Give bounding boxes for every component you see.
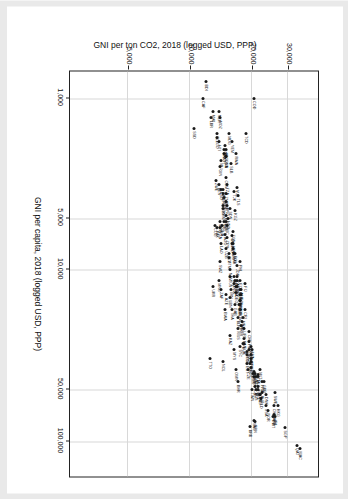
point-label: NER [217, 114, 221, 122]
point-label: TJK [232, 194, 236, 201]
y-tick-mark [288, 65, 289, 69]
point-label: SSD [192, 131, 196, 139]
scatter-point [213, 223, 216, 226]
point-label: MNG [217, 283, 221, 292]
scatter-point [250, 388, 253, 391]
point-label: NAM [228, 272, 232, 280]
x-tick-mark [66, 268, 70, 269]
scatter-point [244, 281, 247, 284]
scatter-point [233, 347, 236, 350]
scatter-point [201, 96, 204, 99]
point-label: LBN [228, 300, 232, 307]
scatter-point [236, 278, 239, 281]
y-tick-label: 20,000 [249, 24, 256, 64]
point-label: SLV [227, 256, 231, 263]
y-tick-mark [190, 65, 191, 69]
point-label: FIJ [243, 286, 247, 291]
point-label: COD [252, 101, 256, 109]
y-tick-mark [252, 65, 253, 69]
scatter-point [234, 303, 237, 306]
scatter-point [239, 260, 242, 263]
point-label: BWA [223, 312, 227, 320]
x-gridline [70, 389, 318, 390]
x-tick-label: 1,000 [57, 88, 64, 106]
scatter-point [239, 345, 242, 348]
y-axis-label: GNI per ton CO2, 2018 (logged USD, PPP) [75, 39, 275, 49]
scatter-point [225, 175, 228, 178]
point-label: SAU [253, 423, 257, 431]
point-label: HTI [217, 144, 221, 150]
point-label: BRB [248, 429, 252, 437]
scatter-point [248, 425, 251, 428]
point-label: COM [224, 180, 228, 189]
point-label: RWA [234, 156, 238, 165]
x-tick-mark [66, 388, 70, 389]
scatter-point [228, 268, 231, 271]
point-label: NCL [221, 364, 225, 372]
scatter-point [233, 281, 236, 284]
x-gridline [70, 441, 318, 442]
point-label: MAR [232, 256, 236, 264]
scatter-point [228, 333, 231, 336]
y-gridline [287, 71, 288, 476]
point-label: MRT [222, 224, 226, 232]
point-label: MUS [236, 331, 240, 339]
point-label: TCD [244, 136, 248, 144]
scatter-point [229, 295, 232, 298]
scatter-point [212, 284, 215, 287]
x-gridline [70, 269, 318, 270]
scatter-point [219, 219, 222, 222]
scatter-point [219, 164, 222, 167]
scatter-point [217, 140, 220, 143]
scatter-point [235, 367, 238, 370]
scatter-point [224, 232, 227, 235]
scatter-point [236, 275, 239, 278]
scatter-point [232, 230, 235, 233]
point-label: KIR [224, 204, 228, 210]
scatter-point [253, 418, 256, 421]
scatter-point [227, 251, 230, 254]
point-label: QAT [295, 448, 299, 455]
point-label: BDI [204, 84, 208, 90]
y-tick-label: 5,000 [126, 24, 133, 64]
point-label: KHM [221, 211, 225, 219]
point-label: CHL [247, 334, 251, 342]
rotated-figure-stage: MACQATSGPCHENORIRLSWEDNKUSAAREKWTMLTFRAG… [0, 0, 348, 499]
point-label: YEM [230, 144, 234, 152]
y-gridline [189, 71, 190, 476]
x-tick-mark [66, 440, 70, 441]
point-label: LSO [219, 192, 223, 200]
x-tick-mark [66, 217, 70, 218]
point-label: USA [264, 408, 268, 416]
point-label: LAO [219, 246, 223, 254]
scatter-point [249, 365, 252, 368]
y-tick-label: 10,000 [188, 24, 195, 64]
scatter-point [233, 190, 236, 193]
scatter-point [208, 357, 211, 360]
x-tick-label: 10,000 [57, 258, 64, 279]
scatter-point [224, 307, 227, 310]
scatter-point [299, 447, 302, 450]
scatter-point [215, 178, 218, 181]
point-label: TTO [208, 361, 212, 368]
scatter-point [224, 144, 227, 147]
point-label: ZWE [214, 183, 218, 191]
scatter-point [222, 359, 225, 362]
scatter-point [235, 185, 238, 188]
scatter-point [234, 208, 237, 211]
point-label: MAC [298, 451, 302, 459]
scatter-point [218, 110, 221, 113]
scatter-point [237, 380, 240, 383]
point-label: GAB [233, 307, 237, 315]
x-tick-label: 100,000 [57, 427, 64, 452]
x-tick-label: 50,000 [57, 378, 64, 399]
point-label: PAN [242, 341, 246, 348]
x-axis-label: GNI per capita, 2018 (logged USD, PPP) [33, 70, 43, 477]
scatter-point [225, 199, 228, 202]
point-label: DZA [232, 286, 236, 294]
scatter-point [220, 187, 223, 190]
point-label: GEO [234, 295, 238, 303]
point-label: SGP [283, 430, 287, 438]
scatter-point [271, 415, 274, 418]
point-label: GRC [247, 352, 251, 360]
